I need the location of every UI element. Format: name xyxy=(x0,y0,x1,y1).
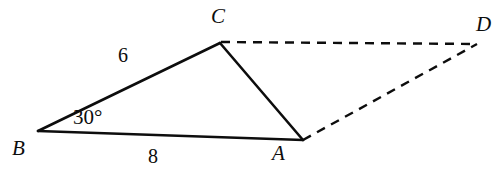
diagram-svg xyxy=(0,0,500,181)
side-length-ba: 8 xyxy=(148,146,158,166)
segment-ad xyxy=(303,44,477,140)
segment-ca xyxy=(220,43,303,140)
vertex-label-a: A xyxy=(272,143,285,164)
vertex-label-d: D xyxy=(476,14,491,35)
angle-measure-b: 30° xyxy=(73,107,102,128)
vertex-label-c: C xyxy=(211,6,225,27)
side-length-bc: 6 xyxy=(118,45,128,65)
segment-ba xyxy=(38,131,303,140)
vertex-label-b: B xyxy=(12,138,25,159)
segment-cd xyxy=(221,42,477,44)
segment-bc xyxy=(38,43,220,131)
geometry-diagram-canvas: C D B A 6 8 30° xyxy=(0,0,500,181)
